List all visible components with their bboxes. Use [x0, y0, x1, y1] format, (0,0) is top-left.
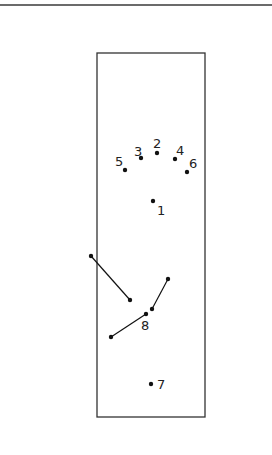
numbered-points: [123, 151, 189, 386]
label-2: 2: [153, 136, 161, 151]
segment-3: [152, 279, 168, 309]
frame-rectangle: [97, 53, 205, 417]
diagram-canvas: 1 2 3 4 5 6 7 8: [0, 0, 272, 455]
endpoint-dot: [89, 254, 93, 258]
label-7: 7: [157, 377, 165, 392]
point-7: [149, 382, 153, 386]
point-5: [123, 168, 127, 172]
label-6: 6: [189, 156, 197, 171]
endpoint-dot: [109, 335, 113, 339]
point-1: [151, 199, 155, 203]
label-8: 8: [141, 318, 149, 333]
endpoint-dot: [128, 298, 132, 302]
label-4: 4: [176, 143, 184, 158]
point-8: [144, 312, 148, 316]
point-2: [155, 151, 159, 155]
label-5: 5: [115, 154, 123, 169]
segments: [91, 256, 168, 337]
endpoint-dot: [150, 307, 154, 311]
label-3: 3: [134, 144, 142, 159]
label-1: 1: [157, 203, 165, 218]
endpoint-dot: [166, 277, 170, 281]
